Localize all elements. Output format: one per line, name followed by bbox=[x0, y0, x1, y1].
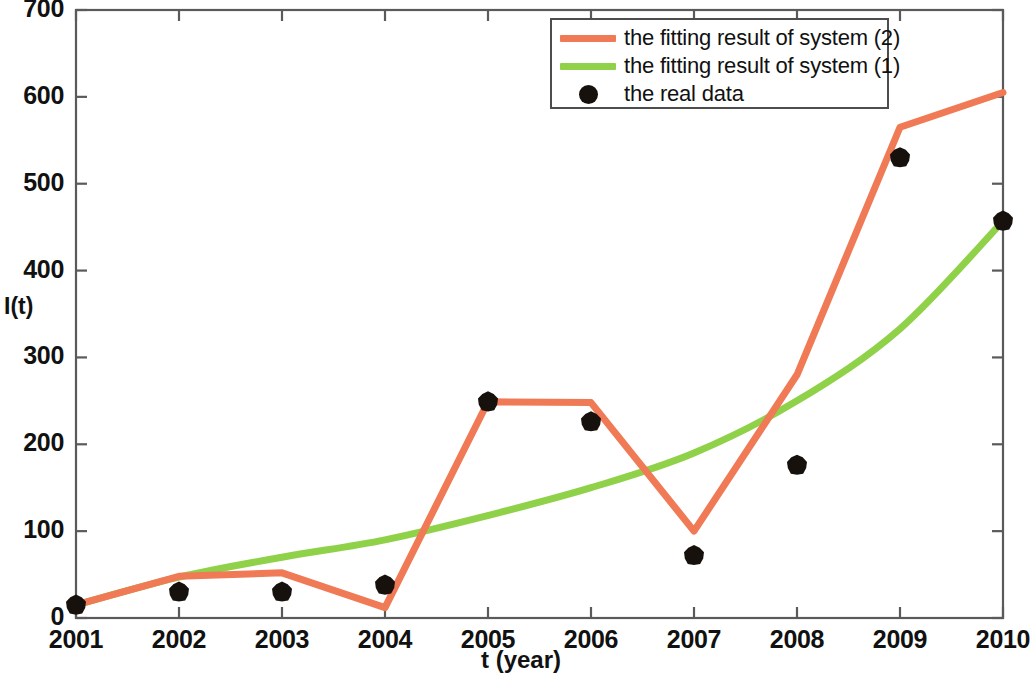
legend-item-system-1: the fitting result of system (1) bbox=[552, 52, 887, 80]
y-axis-tick-label: 200 bbox=[0, 428, 64, 457]
x-axis-tick-label: 2002 bbox=[143, 625, 215, 654]
legend-item-real-data: the real data bbox=[552, 80, 887, 108]
x-axis-tick-label: 2004 bbox=[349, 625, 421, 654]
legend-label-system-2: the fitting result of system (2) bbox=[624, 25, 900, 51]
x-axis-tick-label: 2003 bbox=[246, 625, 318, 654]
legend-label-system-1: the fitting result of system (1) bbox=[624, 53, 900, 79]
y-axis-tick-label: 400 bbox=[0, 255, 64, 284]
x-axis-title: t (year) bbox=[481, 646, 561, 674]
series-markers-real-data bbox=[66, 147, 1013, 614]
legend-marker-real-data-icon bbox=[552, 86, 624, 103]
x-axis-tick-label: 2008 bbox=[761, 625, 833, 654]
y-axis-tick-label: 600 bbox=[0, 81, 64, 110]
legend-label-real-data: the real data bbox=[624, 81, 744, 107]
legend-item-system-2: the fitting result of system (2) bbox=[552, 24, 887, 52]
y-axis-tick-label: 500 bbox=[0, 168, 64, 197]
x-axis-tick-label: 2007 bbox=[658, 625, 730, 654]
x-axis-tick-label: 2006 bbox=[555, 625, 627, 654]
y-axis-tick-label: 100 bbox=[0, 515, 64, 544]
x-axis-tick-label: 2010 bbox=[967, 625, 1034, 654]
chart-legend: the fitting result of system (2) the fit… bbox=[550, 18, 889, 109]
series-line-system-1 bbox=[76, 221, 1003, 605]
y-axis-tick-label: 300 bbox=[0, 341, 64, 370]
y-axis-tick-label: 700 bbox=[0, 0, 64, 23]
x-axis-tick-label: 2009 bbox=[864, 625, 936, 654]
legend-swatch-system-2-icon bbox=[552, 35, 624, 42]
y-axis-title: I(t) bbox=[4, 293, 33, 320]
series-line-system-2 bbox=[76, 93, 1003, 608]
legend-swatch-system-1-icon bbox=[552, 63, 624, 70]
x-axis-tick-label: 2001 bbox=[40, 625, 112, 654]
